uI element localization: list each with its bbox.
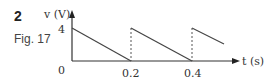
x-axis-label: t (s) [242,55,264,68]
sawtooth-chart: v (V) 4 0 0.2 0.4 t (s) [0,0,268,84]
x-tick-0.4: 0.4 [184,67,202,80]
x-tick-0.2: 0.2 [122,67,140,80]
y-tick-4: 4 [58,23,65,36]
series-segment [72,28,131,61]
x-axis-arrow-icon [232,58,240,64]
y-tick-0: 0 [58,64,65,77]
series-segment [192,28,224,44]
series-segment [131,28,192,61]
y-axis-label: v (V) [43,8,70,21]
